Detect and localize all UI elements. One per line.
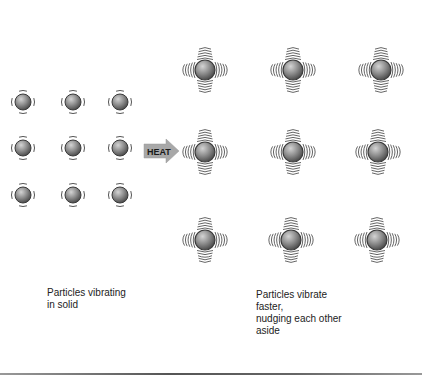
vibration-line-icon [285,258,298,260]
solid-particle [109,184,132,207]
vibration-line-icon [287,132,300,134]
vibration-arc-icon [11,191,12,199]
vibration-line-icon [199,50,212,52]
vibration-line-icon [198,53,212,55]
vibration-line-icon [371,137,386,139]
vibration-line-icon [360,233,362,247]
vibration-arc-icon [34,144,35,152]
particle-ball-icon [65,187,81,203]
particle-ball-icon [15,140,31,156]
vibration-line-icon [374,86,388,88]
vibration-line-icon [374,55,389,57]
vibration-line-icon [286,55,301,57]
vibration-line-icon [273,146,275,158]
particle-ball-icon [195,230,215,250]
vibration-line-icon [355,234,357,245]
vibration-line-icon [188,63,190,77]
vibration-line-icon [185,146,187,158]
vibration-line-icon [199,91,211,93]
solid-particle [62,137,85,160]
vibration-arc-icon [19,206,27,207]
vibration-line-icon [286,165,301,167]
vibration-arc-icon [131,191,132,199]
heat-label: HEAT [147,147,171,157]
vibration-line-icon [287,50,300,52]
vibration-line-icon [375,50,388,52]
vibration-line-icon [199,173,211,175]
vibration-line-icon [371,168,385,170]
vibration-line-icon [198,55,213,57]
vibration-line-icon [199,48,211,50]
vibration-line-icon [308,63,310,77]
particle-ball-icon [195,142,215,162]
vibration-arc-icon [116,184,124,185]
vibration-line-icon [286,137,301,139]
vibration-line-icon [285,261,297,263]
vibration-line-icon [199,258,212,260]
vibration-line-icon [287,170,300,172]
vibration-line-icon [392,233,394,247]
vibration-line-icon [363,233,365,248]
vibration-line-icon [183,146,185,157]
vibration-line-icon [370,225,385,227]
solid-particles-grid [11,90,131,206]
vibration-line-icon [225,146,227,157]
vibration-line-icon [393,145,395,159]
vibration-line-icon [371,220,384,222]
solid-particle [11,184,34,207]
vibration-line-icon [273,64,275,76]
heated-particle [183,48,227,93]
vibration-line-icon [372,132,385,134]
vibration-line-icon [361,145,363,159]
vibration-line-icon [218,63,220,78]
vibration-line-icon [198,165,213,167]
vibration-line-icon [287,88,300,90]
solid-particle [62,184,85,207]
vibration-line-icon [199,88,212,90]
vibration-line-icon [199,220,212,222]
vibration-line-icon [370,223,384,225]
vibration-line-icon [367,63,369,78]
vibration-line-icon [220,145,222,159]
vibration-line-icon [373,81,389,83]
vibration-line-icon [358,146,360,158]
vibration-line-icon [185,64,187,76]
vibration-arc-icon [109,98,110,106]
vibration-line-icon [188,233,190,247]
vibration-line-icon [284,253,299,255]
vibration-line-icon [396,146,398,158]
vibration-line-icon [309,234,311,246]
vibration-line-icon [311,234,313,245]
vibration-line-icon [306,233,308,247]
particle-ball-icon [195,60,215,80]
vibration-line-icon [197,140,213,142]
vibration-line-icon [223,234,225,246]
particle-ball-icon [283,60,303,80]
particle-ball-icon [281,230,301,250]
solid-particle [61,91,84,114]
vibration-line-icon [371,258,384,260]
vibration-line-icon [225,64,227,75]
vibration-line-icon [372,170,385,172]
vibration-arc-icon [84,191,85,199]
vibration-line-icon [197,251,213,253]
vibration-line-icon [391,145,393,160]
vibration-line-icon [371,165,386,167]
vibration-line-icon [374,53,388,55]
vibration-arc-icon [84,144,85,152]
vibration-line-icon [372,130,384,132]
vibration-line-icon [373,58,389,60]
vibration-line-icon [287,130,299,132]
heated-particle [269,218,313,263]
heated-particle [183,218,227,263]
vibration-arc-icon [131,144,132,152]
vibration-line-icon [284,223,298,225]
vibration-line-icon [269,234,271,245]
particle-ball-icon [112,140,128,156]
vibration-line-icon [198,135,212,137]
vibration-line-icon [370,140,386,142]
vibration-line-icon [361,64,363,76]
heated-particle [356,130,400,175]
heated-particles-grid [183,48,403,263]
vibration-line-icon [199,170,212,172]
